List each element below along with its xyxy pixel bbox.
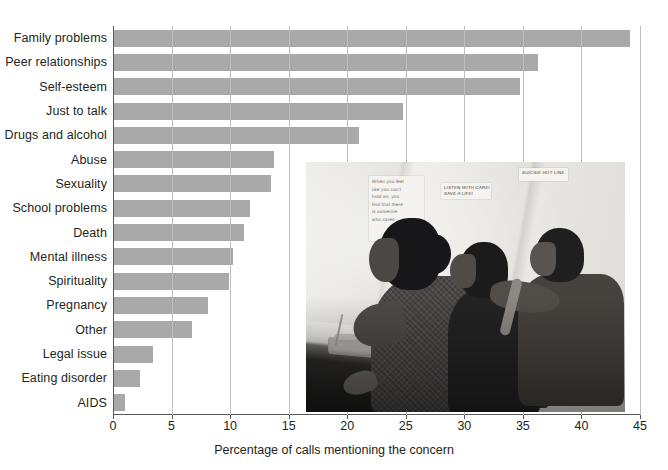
bar-row xyxy=(113,123,640,147)
photo-content: When you feel like you can't hold on, yo… xyxy=(306,162,625,412)
bar xyxy=(114,370,140,387)
category-label: Other xyxy=(0,318,107,342)
category-label: Just to talk xyxy=(0,99,107,123)
sign-line: SUICIDE HOT LINE xyxy=(522,170,566,176)
photo-vignette xyxy=(306,297,625,412)
x-tick-label: 25 xyxy=(399,419,413,433)
note-line: When you feel xyxy=(372,178,422,186)
bar-row xyxy=(113,50,640,74)
category-label: Death xyxy=(0,221,107,245)
bar xyxy=(114,297,208,314)
x-tick-label: 10 xyxy=(223,419,237,433)
bar xyxy=(114,224,244,241)
person-face xyxy=(530,242,556,276)
x-tick-label: 45 xyxy=(633,419,647,433)
bar xyxy=(114,54,538,71)
person-face xyxy=(369,238,399,282)
category-label: Spirituality xyxy=(0,269,107,293)
bar xyxy=(114,103,403,120)
category-label: Legal issue xyxy=(0,342,107,366)
x-axis-title: Percentage of calls mentioning the conce… xyxy=(0,443,668,457)
listen-with-care-sign: LISTEN WITH CARE! SAVE A LIFE! xyxy=(441,183,491,199)
bar xyxy=(114,127,359,144)
x-tick-label: 30 xyxy=(457,419,471,433)
category-label: Mental illness xyxy=(0,245,107,269)
bar xyxy=(114,30,630,47)
category-label: Pregnancy xyxy=(0,293,107,317)
x-axis-tick-labels: 051015202530354045 xyxy=(113,419,640,437)
category-label: Self-esteem xyxy=(0,75,107,99)
x-tick-label: 35 xyxy=(516,419,530,433)
bar xyxy=(114,394,125,411)
gridline xyxy=(172,26,173,415)
category-label: AIDS xyxy=(0,391,107,415)
inset-photograph: When you feel like you can't hold on, yo… xyxy=(306,162,625,412)
bar xyxy=(114,346,153,363)
note-line: hold on, you xyxy=(372,193,422,201)
category-label: Peer relationships xyxy=(0,50,107,74)
bar xyxy=(114,151,274,168)
category-label: School problems xyxy=(0,196,107,220)
x-tick-label: 5 xyxy=(168,419,175,433)
bar xyxy=(114,175,271,192)
category-axis-labels: Family problemsPeer relationshipsSelf-es… xyxy=(0,26,107,415)
bar xyxy=(114,78,520,95)
bar-row xyxy=(113,26,640,50)
gridline xyxy=(640,26,641,415)
bar-row xyxy=(113,75,640,99)
category-label: Sexuality xyxy=(0,172,107,196)
x-tick-label: 40 xyxy=(574,419,588,433)
sign-line: LISTEN WITH CARE! xyxy=(444,185,489,191)
bar xyxy=(114,248,233,265)
person-face xyxy=(450,254,476,288)
category-label: Family problems xyxy=(0,26,107,50)
bar-row xyxy=(113,99,640,123)
gridline xyxy=(230,26,231,415)
category-label: Eating disorder xyxy=(0,366,107,390)
x-tick-label: 20 xyxy=(340,419,354,433)
x-tick-label: 0 xyxy=(110,419,117,433)
x-tick-label: 15 xyxy=(282,419,296,433)
suicide-hotline-sign: SUICIDE HOT LINE xyxy=(519,168,568,181)
bar xyxy=(114,321,192,338)
sign-line: SAVE A LIFE! xyxy=(444,191,489,197)
category-label: Drugs and alcohol xyxy=(0,123,107,147)
horizontal-bar-chart: Family problemsPeer relationshipsSelf-es… xyxy=(0,0,668,470)
gridline xyxy=(289,26,290,415)
category-label: Abuse xyxy=(0,148,107,172)
